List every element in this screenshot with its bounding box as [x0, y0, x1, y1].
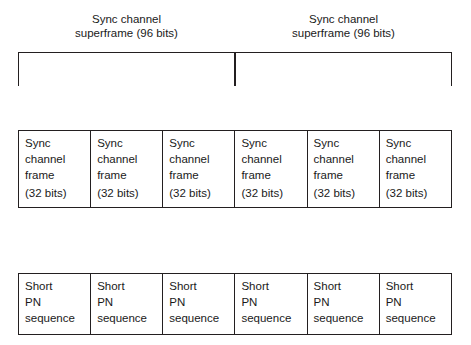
superframe-label-2-line2: superframe (96 bits): [235, 26, 452, 40]
short-pn-sequence-5: Short PN sequence: [307, 273, 380, 335]
superframe-bracket-1: [18, 52, 236, 86]
sync-channel-frame-1-line1: Sync: [25, 135, 90, 151]
sync-channel-frame-6: Sync channel frame (32 bits): [379, 130, 452, 208]
sync-channel-frame-5-line3: frame: [314, 167, 379, 183]
superframe-label-1-line1: Sync channel: [18, 12, 235, 26]
short-pn-sequence-2: Short PN sequence: [90, 273, 163, 335]
short-pn-sequence-6-line2: PN: [386, 294, 451, 310]
sync-channel-frame-6-line4: (32 bits): [386, 185, 451, 201]
sync-channel-frame-2-line2: channel: [97, 151, 162, 167]
superframe-bracket-2: [234, 52, 452, 86]
short-pn-sequence-6: Short PN sequence: [379, 273, 452, 335]
sync-channel-frame-5-line2: channel: [314, 151, 379, 167]
sync-channel-frame-5-line1: Sync: [314, 135, 379, 151]
short-pn-sequence-5-line1: Short: [314, 278, 379, 294]
short-pn-sequence-4-line2: PN: [241, 294, 306, 310]
sync-channel-frame-3: Sync channel frame (32 bits): [162, 130, 235, 208]
sync-channel-frame-1-line4: (32 bits): [25, 185, 90, 201]
sync-channel-frame-6-line1: Sync: [386, 135, 451, 151]
sync-channel-frame-2-line1: Sync: [97, 135, 162, 151]
sync-channel-frame-1-line3: frame: [25, 167, 90, 183]
superframe-label-row: Sync channel superframe (96 bits) Sync c…: [18, 12, 452, 50]
sync-channel-frame-5: Sync channel frame (32 bits): [307, 130, 380, 208]
superframe-label-2: Sync channel superframe (96 bits): [235, 12, 452, 50]
sync-channel-frame-2-line3: frame: [97, 167, 162, 183]
short-pn-sequence-4-line3: sequence: [241, 310, 306, 326]
short-pn-sequence-6-line1: Short: [386, 278, 451, 294]
superframe-label-1-line2: superframe (96 bits): [18, 26, 235, 40]
sync-channel-frame-3-line2: channel: [169, 151, 234, 167]
sync-channel-frame-4-line4: (32 bits): [241, 185, 306, 201]
superframe-label-1: Sync channel superframe (96 bits): [18, 12, 235, 50]
sync-channel-frame-2-line4: (32 bits): [97, 185, 162, 201]
sync-channel-frame-5-line4: (32 bits): [314, 185, 379, 201]
short-pn-sequence-1-line1: Short: [25, 278, 90, 294]
short-pn-sequence-2-line1: Short: [97, 278, 162, 294]
sync-channel-frame-6-line2: channel: [386, 151, 451, 167]
short-pn-sequence-5-line2: PN: [314, 294, 379, 310]
sync-channel-frame-4-line1: Sync: [241, 135, 306, 151]
short-pn-sequence-4: Short PN sequence: [234, 273, 307, 335]
short-pn-sequence-row: Short PN sequence Short PN sequence Shor…: [18, 273, 452, 335]
short-pn-sequence-6-line3: sequence: [386, 310, 451, 326]
sync-channel-frame-3-line3: frame: [169, 167, 234, 183]
short-pn-sequence-4-line1: Short: [241, 278, 306, 294]
short-pn-sequence-1: Short PN sequence: [18, 273, 91, 335]
sync-channel-frame-3-line1: Sync: [169, 135, 234, 151]
short-pn-sequence-3-line2: PN: [169, 294, 234, 310]
superframe-label-2-line1: Sync channel: [235, 12, 452, 26]
short-pn-sequence-3-line3: sequence: [169, 310, 234, 326]
sync-channel-frame-4-line3: frame: [241, 167, 306, 183]
sync-channel-frame-3-line4: (32 bits): [169, 185, 234, 201]
short-pn-sequence-3-line1: Short: [169, 278, 234, 294]
short-pn-sequence-5-line3: sequence: [314, 310, 379, 326]
sync-channel-frame-4-line2: channel: [241, 151, 306, 167]
sync-channel-frame-4: Sync channel frame (32 bits): [234, 130, 307, 208]
superframe-bracket-row: [18, 52, 452, 86]
sync-channel-frame-1-line2: channel: [25, 151, 90, 167]
sync-channel-frame-row: Sync channel frame (32 bits) Sync channe…: [18, 130, 452, 208]
short-pn-sequence-1-line3: sequence: [25, 310, 90, 326]
short-pn-sequence-3: Short PN sequence: [162, 273, 235, 335]
sync-channel-frame-2: Sync channel frame (32 bits): [90, 130, 163, 208]
short-pn-sequence-2-line3: sequence: [97, 310, 162, 326]
short-pn-sequence-2-line2: PN: [97, 294, 162, 310]
sync-channel-frame-6-line3: frame: [386, 167, 451, 183]
sync-channel-frame-1: Sync channel frame (32 bits): [18, 130, 91, 208]
diagram-canvas: Sync channel superframe (96 bits) Sync c…: [0, 0, 471, 345]
short-pn-sequence-1-line2: PN: [25, 294, 90, 310]
